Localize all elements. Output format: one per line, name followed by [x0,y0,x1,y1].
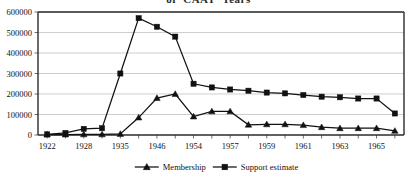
data-point-support-estimate [228,87,233,92]
x-axis-labels-group: 1922192819351946195419571959196119631965 [39,141,385,151]
y-axis-label: 200000 [7,89,33,99]
data-point-support-estimate [118,71,123,76]
data-point-support-estimate [81,126,86,131]
x-axis-label: 1922 [39,141,56,151]
data-point-support-estimate [173,34,178,39]
y-axis-label: 600000 [7,7,33,17]
x-axis-label: 1957 [222,141,239,151]
y-axis-label: 500000 [7,28,33,38]
y-axis-label: 400000 [7,48,33,58]
x-axis-label: 1965 [368,141,385,151]
x-axis-label: 1954 [185,141,203,151]
data-point-support-estimate [319,94,324,99]
y-axis-labels-group: 0100000200000300000400000500000600000 [7,7,33,140]
data-point-support-estimate [337,95,342,100]
x-axis-label: 1959 [258,141,275,151]
series-group [44,16,398,137]
x-axis-label: 1961 [295,141,312,151]
data-point-support-estimate [246,88,251,93]
data-point-support-estimate [154,24,159,29]
chart-container: of 'CAAT' Years 010000020000030000040000… [0,0,417,182]
x-axis-label: 1963 [331,141,348,151]
data-point-support-estimate [264,90,269,95]
data-point-support-estimate [136,16,141,21]
data-point-support-estimate [356,96,361,101]
legend-label: Support estimate [241,162,299,172]
gridlines-group [38,12,404,115]
chart-title: of 'CAAT' Years [0,0,417,5]
data-point-support-estimate [374,96,379,101]
data-point-support-estimate [191,81,196,86]
data-point-support-estimate [392,111,397,116]
x-axis-label: 1928 [75,141,92,151]
y-axis-label: 0 [28,130,32,140]
data-point-support-estimate [282,91,287,96]
y-axis-label: 100000 [7,110,33,120]
data-point-membership [172,91,179,97]
chart-legend: MembershipSupport estimate [135,162,299,172]
legend-label: Membership [163,162,206,172]
x-axis-label: 1946 [148,141,165,151]
data-point-support-estimate [45,132,50,137]
data-point-support-estimate [209,85,214,90]
data-point-support-estimate [63,130,68,135]
y-axis-label: 300000 [7,69,33,79]
data-point-support-estimate [301,92,306,97]
x-axis-label: 1935 [112,141,129,151]
data-point-support-estimate [99,126,104,131]
legend-marker-square [222,164,228,170]
line-chart-plot: 0100000200000300000400000500000600000 19… [0,0,417,182]
series-line-support-estimate [47,18,395,134]
